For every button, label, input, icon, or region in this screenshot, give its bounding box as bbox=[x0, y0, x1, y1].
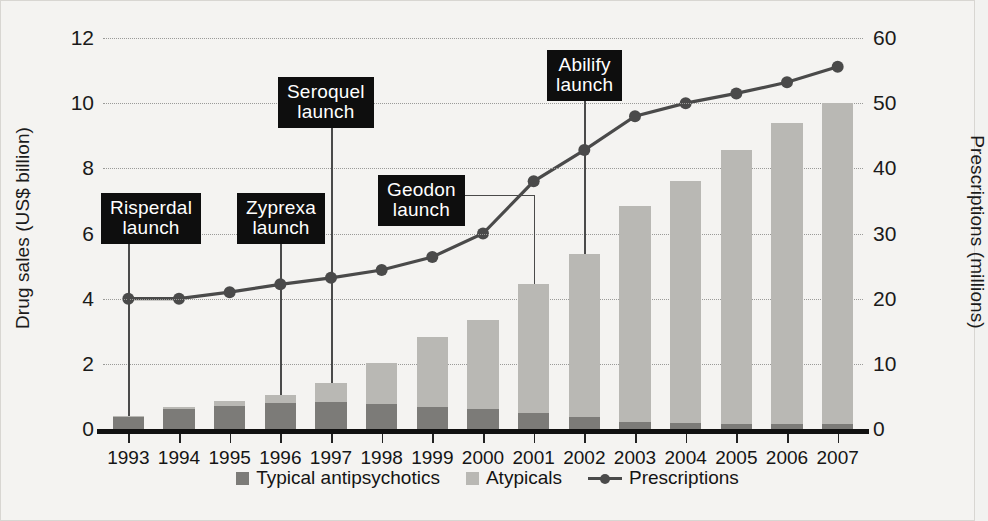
bar-2006[interactable] bbox=[771, 123, 802, 429]
bar-segment-atypicals bbox=[721, 150, 752, 424]
legend-item[interactable]: Typical antipsychotics bbox=[236, 467, 440, 489]
x-axis-tick bbox=[280, 434, 282, 443]
bar-segment-atypicals bbox=[619, 206, 650, 422]
x-axis-label-2007: 2007 bbox=[817, 447, 859, 469]
x-axis-label-2005: 2005 bbox=[715, 447, 757, 469]
y-axis-right-tick: 30 bbox=[873, 223, 896, 244]
y-axis-left-tick: 6 bbox=[82, 223, 94, 244]
bar-1993[interactable] bbox=[113, 416, 144, 429]
x-axis-label-1993: 1993 bbox=[107, 447, 149, 469]
bar-segment-atypicals bbox=[265, 395, 296, 403]
bar-segment-atypicals bbox=[315, 383, 346, 402]
chart-legend: Typical antipsychoticsAtypicalsPrescript… bbox=[1, 467, 974, 489]
bar-segment-typical bbox=[569, 417, 600, 429]
annotation-leader-vertical bbox=[128, 244, 130, 416]
y-axis-right-tick: 10 bbox=[873, 353, 896, 374]
prescriptions-point-1995[interactable] bbox=[224, 286, 236, 298]
annotation-risperdal: Risperdal launch bbox=[101, 193, 201, 244]
bar-segment-atypicals bbox=[366, 363, 397, 404]
x-axis-tick bbox=[179, 434, 181, 443]
x-axis-tick bbox=[787, 434, 789, 443]
x-axis-tick bbox=[635, 434, 637, 443]
annotation-leader-vertical bbox=[584, 101, 586, 254]
bar-2001[interactable] bbox=[518, 284, 549, 429]
x-axis-tick bbox=[331, 434, 333, 443]
annotation-leader-vertical bbox=[331, 128, 333, 383]
plot-area: 0246810120102030405060199319941995199619… bbox=[103, 38, 863, 429]
x-axis-label-2001: 2001 bbox=[513, 447, 555, 469]
x-axis-tick bbox=[534, 434, 536, 443]
x-axis-label-2003: 2003 bbox=[614, 447, 656, 469]
y-axis-right-tick: 20 bbox=[873, 288, 896, 309]
legend-swatch-icon bbox=[236, 472, 249, 485]
y-axis-left-tick: 10 bbox=[71, 92, 94, 113]
y-axis-left-tick: 8 bbox=[82, 157, 94, 178]
bar-segment-typical bbox=[265, 403, 296, 429]
bar-2002[interactable] bbox=[569, 254, 600, 429]
x-axis-label-1994: 1994 bbox=[158, 447, 200, 469]
prescriptions-point-1998[interactable] bbox=[376, 264, 388, 276]
bar-segment-typical bbox=[163, 409, 194, 429]
prescriptions-point-2001[interactable] bbox=[528, 175, 540, 187]
prescriptions-point-2003[interactable] bbox=[629, 110, 641, 122]
bar-segment-typical bbox=[315, 402, 346, 429]
annotation-seroquel: Seroquel launch bbox=[278, 77, 374, 128]
x-axis-label-1995: 1995 bbox=[209, 447, 251, 469]
legend-swatch-icon bbox=[466, 472, 479, 485]
y-axis-right-tick: 60 bbox=[873, 27, 896, 48]
x-axis-tick bbox=[584, 434, 586, 443]
prescriptions-point-2006[interactable] bbox=[781, 76, 793, 88]
x-axis-tick bbox=[483, 434, 485, 443]
x-axis-label-2004: 2004 bbox=[665, 447, 707, 469]
y-axis-right-title: Prescriptions (millions) bbox=[966, 82, 988, 382]
x-axis-tick bbox=[686, 434, 688, 443]
bar-segment-atypicals bbox=[822, 103, 853, 424]
bar-1999[interactable] bbox=[417, 337, 448, 429]
bar-1995[interactable] bbox=[214, 401, 245, 429]
y-axis-left-tick: 4 bbox=[82, 288, 94, 309]
x-axis-label-2006: 2006 bbox=[766, 447, 808, 469]
gridline bbox=[103, 103, 863, 104]
prescriptions-point-2005[interactable] bbox=[730, 87, 742, 99]
bar-segment-atypicals bbox=[417, 337, 448, 407]
bar-1997[interactable] bbox=[315, 383, 346, 429]
annotation-zyprexa: Zyprexa launch bbox=[237, 193, 325, 244]
prescriptions-point-2007[interactable] bbox=[832, 61, 844, 73]
x-axis-label-1996: 1996 bbox=[259, 447, 301, 469]
x-axis-tick bbox=[230, 434, 232, 443]
bar-2004[interactable] bbox=[670, 181, 701, 429]
bar-segment-atypicals bbox=[518, 284, 549, 412]
bar-segment-typical bbox=[721, 424, 752, 429]
bar-1998[interactable] bbox=[366, 363, 397, 429]
legend-item[interactable]: Atypicals bbox=[466, 467, 562, 489]
bar-segment-atypicals bbox=[569, 254, 600, 417]
bar-segment-atypicals bbox=[467, 320, 498, 410]
x-axis-label-1999: 1999 bbox=[411, 447, 453, 469]
bar-1994[interactable] bbox=[163, 407, 194, 429]
bar-1996[interactable] bbox=[265, 395, 296, 429]
bar-segment-typical bbox=[467, 409, 498, 429]
bar-segment-typical bbox=[822, 424, 853, 429]
bar-segment-typical bbox=[366, 404, 397, 429]
x-axis-label-2000: 2000 bbox=[462, 447, 504, 469]
bar-2005[interactable] bbox=[721, 150, 752, 429]
x-axis-tick bbox=[736, 434, 738, 443]
legend-item[interactable]: Prescriptions bbox=[588, 467, 739, 489]
annotation-abilify: Abilify launch bbox=[547, 50, 622, 101]
x-axis-tick bbox=[382, 434, 384, 443]
bar-2003[interactable] bbox=[619, 206, 650, 429]
annotation-leader-vertical bbox=[534, 195, 536, 285]
y-axis-left-tick: 0 bbox=[82, 418, 94, 439]
bar-2007[interactable] bbox=[822, 103, 853, 429]
y-axis-left-tick: 2 bbox=[82, 353, 94, 374]
x-axis-label-1997: 1997 bbox=[310, 447, 352, 469]
x-axis-label-2002: 2002 bbox=[563, 447, 605, 469]
prescriptions-point-1999[interactable] bbox=[426, 251, 438, 263]
bar-2000[interactable] bbox=[467, 320, 498, 429]
legend-label: Typical antipsychotics bbox=[256, 467, 440, 489]
y-axis-left-tick: 12 bbox=[71, 27, 94, 48]
gridline bbox=[103, 38, 863, 39]
legend-line-marker-icon bbox=[588, 472, 622, 485]
bar-segment-atypicals bbox=[771, 123, 802, 424]
